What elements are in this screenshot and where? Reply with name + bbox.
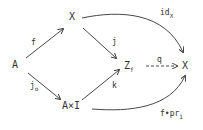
label-k-text: k [112,81,117,90]
label-idX-subscript: X [170,12,174,19]
label-j: j [112,38,117,46]
node-X-right: X [182,61,188,71]
node-X-top: X [69,12,75,22]
mapping-cylinder-diagram: A X A×I Zf X f jo j k q idX f•pr1 [0,0,203,130]
label-fpr1-text: f•pr [160,109,179,118]
node-Zf: Zf [124,61,134,71]
node-AxI-label: A×I [62,100,80,111]
label-f: f [31,39,36,47]
label-fpr1-subscript: 1 [179,113,183,120]
arrow-idX [82,14,183,52]
node-X-top-label: X [69,11,75,22]
label-q: q [157,56,162,64]
label-k: k [112,82,117,90]
node-X-right-label: X [182,60,188,71]
label-j0: jo [30,82,38,90]
label-j0-subscript: o [35,85,39,92]
label-fpr1: f•pr1 [160,110,183,118]
node-AxI: A×I [62,101,80,111]
label-idX: idX [160,9,173,17]
label-idX-text: id [160,8,170,17]
label-j-text: j [112,37,117,46]
node-Zf-subscript: f [130,66,134,73]
node-A-label: A [12,59,18,70]
label-q-text: q [157,55,162,64]
node-A: A [12,60,18,70]
label-f-text: f [31,38,36,47]
